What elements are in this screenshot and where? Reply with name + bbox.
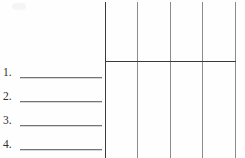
- grid-vertical-line: [202, 2, 203, 158]
- grid-horizontal-line: [105, 61, 236, 62]
- worksheet-page: 1. 2. 3. 4.: [0, 0, 245, 158]
- blank-table-grid: [0, 0, 245, 158]
- grid-vertical-line: [170, 2, 171, 158]
- grid-vertical-line: [137, 2, 138, 158]
- grid-vertical-line: [235, 2, 236, 158]
- grid-vertical-line: [105, 2, 106, 158]
